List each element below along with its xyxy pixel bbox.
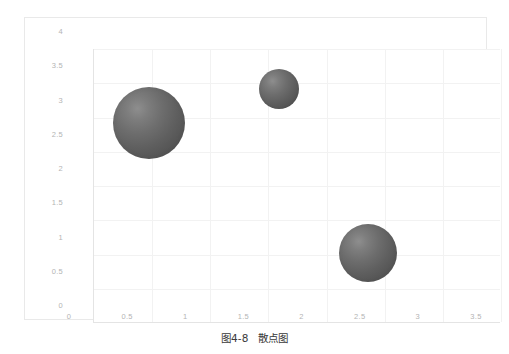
caption-number: 图4-8	[221, 332, 249, 344]
y-axis-tick-label: 2	[43, 165, 63, 173]
y-axis-tick-label: 3.5	[43, 63, 63, 71]
x-axis-tick-label: 2	[299, 313, 303, 321]
y-axis-tick-label: 0	[43, 302, 63, 310]
x-axis-tick-label: 1	[183, 313, 187, 321]
chart-frame: 00.511.522.533.5400.511.522.533.5	[24, 17, 487, 320]
gridline-vertical	[385, 49, 386, 322]
y-axis-tick-label: 2.5	[43, 131, 63, 139]
gridline-horizontal	[94, 289, 500, 290]
gridline-vertical	[443, 49, 444, 322]
x-axis-tick-label: 0.5	[121, 313, 132, 321]
y-axis-tick-label: 1	[43, 234, 63, 242]
x-axis-tick-label: 3	[416, 313, 420, 321]
gridline-horizontal	[94, 220, 500, 221]
gridline-horizontal	[94, 49, 500, 50]
gridline-horizontal	[94, 186, 500, 187]
x-axis-tick-label: 2.5	[354, 313, 365, 321]
gridline-vertical	[501, 49, 502, 322]
figure-caption: 图4-8散点图	[0, 330, 509, 345]
scatter-figure: 00.511.522.533.5400.511.522.533.5 图4-8散点…	[0, 0, 509, 354]
gridline-vertical	[210, 49, 211, 322]
gridline-vertical	[327, 49, 328, 322]
x-axis-tick-label: 0	[67, 313, 71, 321]
scatter-bubble	[339, 224, 397, 282]
x-axis-tick-label: 1.5	[238, 313, 249, 321]
scatter-bubble	[113, 87, 185, 159]
gridline-horizontal	[94, 255, 500, 256]
y-axis-tick-label: 1.5	[43, 200, 63, 208]
x-axis-tick-label: 3.5	[470, 313, 481, 321]
caption-title: 散点图	[258, 332, 289, 344]
y-axis-tick-label: 3	[43, 97, 63, 105]
y-axis-tick-label: 4	[43, 28, 63, 36]
y-axis-tick-label: 0.5	[43, 268, 63, 276]
